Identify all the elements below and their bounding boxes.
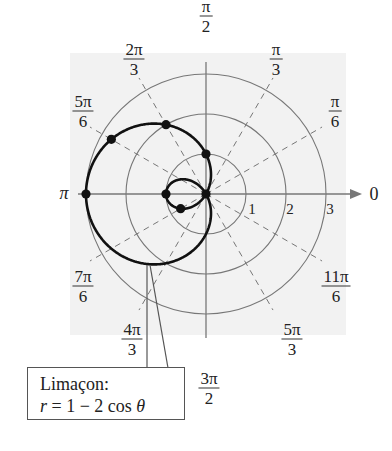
angle-label-numerator: π (270, 41, 283, 60)
angle-label-pi: π (59, 183, 68, 204)
angle-label-4pi-3: 4π3 (121, 321, 142, 358)
angle-label-denominator: 6 (331, 112, 340, 130)
angle-label-pi-6: π6 (329, 93, 342, 130)
angle-label-denominator: 3 (130, 60, 139, 78)
angle-label-7pi-6: 7π6 (72, 268, 93, 305)
angle-label-3pi-2: 3π2 (198, 370, 219, 407)
angle-label-zero: 0 (370, 184, 379, 205)
polar-axis-arrowhead (350, 189, 362, 199)
angle-label-denominator: 3 (272, 60, 281, 78)
angle-label-5pi-6: 5π6 (72, 93, 93, 130)
angle-label-numerator: π (329, 93, 342, 112)
marked-point-4 (161, 120, 170, 129)
callout-equation: r = 1 − 2 cos θ (40, 395, 184, 417)
angle-label-denominator: 6 (332, 287, 341, 305)
marked-point-3 (201, 149, 210, 158)
angle-label-denominator: 6 (79, 112, 88, 130)
angle-label-numerator: 3π (198, 370, 219, 389)
angle-label-pi-3: π3 (270, 41, 283, 78)
marked-point-2 (201, 189, 210, 198)
angle-label-2pi-3: 2π3 (123, 41, 144, 78)
angle-label-numerator: π (200, 0, 213, 17)
angle-label-denominator: 2 (202, 17, 211, 35)
angle-label-numerator: 2π (123, 41, 144, 60)
angle-label-numerator: 5π (281, 321, 302, 340)
angle-label-denominator: 3 (288, 340, 297, 358)
callout-title: Limaçon: (40, 373, 184, 395)
angle-label-denominator: 3 (128, 340, 137, 358)
angle-label-numerator: 4π (121, 321, 142, 340)
angle-label-numerator: 5π (72, 93, 93, 112)
radial-tick-1: 1 (248, 201, 256, 218)
marked-point-6 (81, 189, 90, 198)
angle-label-numerator: 11π (322, 268, 351, 287)
angle-label-11pi-6: 11π6 (322, 268, 351, 305)
marked-point-0 (161, 189, 170, 198)
equation-callout: Limaçon: r = 1 − 2 cos θ (27, 367, 185, 420)
angle-label-numerator: 7π (72, 268, 93, 287)
marked-point-5 (107, 135, 116, 144)
angle-label-pi-2: π2 (200, 0, 213, 35)
angle-label-denominator: 6 (79, 287, 88, 305)
angle-label-5pi-3: 5π3 (281, 321, 302, 358)
radial-tick-2: 2 (286, 201, 294, 218)
marked-point-1 (176, 204, 185, 213)
radial-tick-3: 3 (326, 201, 334, 218)
angle-label-denominator: 2 (205, 389, 214, 407)
